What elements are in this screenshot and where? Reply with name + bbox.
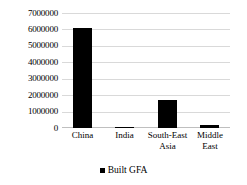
- bar-india: [115, 127, 134, 129]
- x-tick-label-china: China: [62, 130, 103, 141]
- chart-legend: Built GFA: [0, 165, 247, 175]
- y-tick-label: 7000000: [0, 9, 58, 18]
- legend-entry-label: Built GFA: [108, 165, 148, 175]
- y-tick-label: 1000000: [0, 107, 58, 116]
- x-axis: China India South-East Asia Middle East: [62, 130, 230, 160]
- plot-area: [62, 13, 230, 128]
- bar-south-east-asia: [158, 100, 177, 128]
- y-axis: 7000000 6000000 5000000 4000000 3000000 …: [0, 0, 58, 185]
- bar-china: [73, 28, 92, 128]
- y-tick-label: 3000000: [0, 74, 58, 83]
- bar-chart: 7000000 6000000 5000000 4000000 3000000 …: [0, 0, 247, 185]
- x-tick-label-middle-east: Middle East: [190, 130, 230, 151]
- x-tick-label-south-east-asia: South-East Asia: [146, 130, 189, 151]
- y-tick-label: 4000000: [0, 58, 58, 67]
- x-tick-label-india: India: [104, 130, 145, 141]
- y-tick-label: 5000000: [0, 41, 58, 50]
- y-tick-label: 6000000: [0, 25, 58, 34]
- square-marker-icon: [100, 168, 105, 173]
- gridline: [62, 13, 230, 14]
- bar-middle-east: [200, 125, 219, 128]
- y-tick-label: 2000000: [0, 91, 58, 100]
- y-tick-label: 0: [0, 124, 58, 133]
